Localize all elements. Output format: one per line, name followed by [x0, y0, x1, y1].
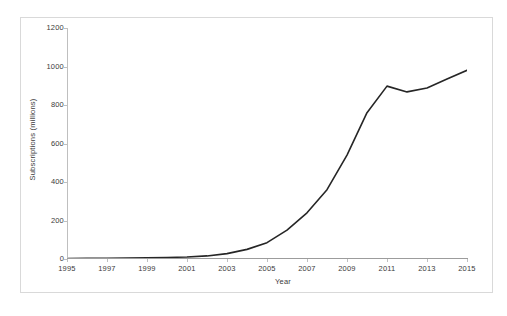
x-axis-title: Year [163, 277, 403, 286]
x-tick-label: 1995 [47, 264, 87, 273]
x-tick-label: 2015 [447, 264, 487, 273]
x-tick-mark [147, 259, 148, 262]
x-tick-label: 1997 [87, 264, 127, 273]
x-tick-label: 2005 [247, 264, 287, 273]
chart-figure: 020040060080010001200 199519971999200120… [0, 0, 507, 316]
x-tick-mark [427, 259, 428, 262]
x-tick-mark [227, 259, 228, 262]
x-tick-label: 2013 [407, 264, 447, 273]
x-tick-label: 2009 [327, 264, 367, 273]
x-tick-label: 2011 [367, 264, 407, 273]
x-axis-ticks: 1995199719992001200320052007200920112013… [0, 0, 507, 316]
x-tick-label: 2001 [167, 264, 207, 273]
x-tick-label: 1999 [127, 264, 167, 273]
x-tick-mark [307, 259, 308, 262]
x-tick-mark [347, 259, 348, 262]
x-tick-mark [267, 259, 268, 262]
x-tick-mark [187, 259, 188, 262]
x-tick-mark [107, 259, 108, 262]
x-tick-label: 2007 [287, 264, 327, 273]
x-tick-mark [67, 259, 68, 262]
x-tick-mark [387, 259, 388, 262]
x-tick-label: 2003 [207, 264, 247, 273]
x-tick-mark [467, 259, 468, 262]
y-axis-title: Subscriptions (millions) [28, 80, 37, 200]
